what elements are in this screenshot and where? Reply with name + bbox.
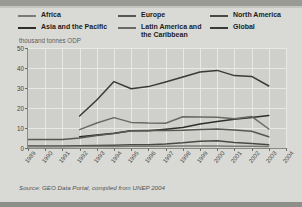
x-tick-mark-2003 [269,148,270,151]
legend-label-latin-america-and-the-caribbean: Latin America and the Caribbean [141,23,210,40]
x-tick-label-2004: 2004 [282,150,295,164]
y-axis-title: thousand tonnes ODP [19,37,81,44]
legend-label-asia-and-the-pacific: Asia and the Pacific [41,23,107,32]
x-tick-mark-2001 [234,148,235,151]
plot-area: 01020304050 1989199019911992199319941995… [28,48,286,148]
y-tick-mark-40 [25,68,28,69]
legend-swatch-europe [118,15,136,17]
legend-item-north-america: North America [210,11,292,20]
legend-label-europe: Europe [141,11,165,20]
x-tick-mark-1994 [114,148,115,151]
x-tick-label-1995: 1995 [127,150,140,164]
x-tick-mark-2002 [252,148,253,151]
legend-label-north-america: North America [233,11,281,20]
x-tick-label-1999: 1999 [196,150,209,164]
y-tick-label-40: 40 [17,65,24,72]
x-tick-mark-1997 [166,148,167,151]
x-tick-label-2002: 2002 [247,150,260,164]
x-tick-label-1994: 1994 [110,150,123,164]
y-tick-mark-50 [25,48,28,49]
figure-chart-ozone-depleting-substances: Africa Asia and the Pacific Europe Latin… [0,0,302,207]
y-tick-label-50: 50 [17,45,24,52]
legend-swatch-latin-america-and-the-caribbean [118,27,136,29]
legend-column-1: Africa Asia and the Pacific [18,11,118,34]
x-tick-label-1989: 1989 [24,150,37,164]
x-axis-line [27,148,286,149]
series-line-north-america [28,141,269,146]
y-tick-label-20: 20 [17,105,24,112]
y-tick-label-0: 0 [20,145,24,152]
chart-legend: Africa Asia and the Pacific Europe Latin… [18,11,290,39]
gridline-x-2004 [286,48,287,148]
legend-column-3: North America Global [210,11,292,34]
source-note: Source: GEO Data Portal, compiled from U… [19,184,165,191]
x-tick-mark-1989 [28,148,29,151]
legend-item-africa: Africa [18,11,118,20]
legend-item-global: Global [210,23,292,32]
x-tick-mark-2004 [286,148,287,151]
legend-swatch-north-america [210,15,228,17]
y-tick-label-30: 30 [17,85,24,92]
x-tick-label-2003: 2003 [265,150,278,164]
x-tick-label-1990: 1990 [41,150,54,164]
bottom-rule [0,202,302,207]
x-tick-mark-1991 [62,148,63,151]
y-tick-mark-10 [25,128,28,129]
series-line-global [80,70,269,116]
legend-label-global: Global [233,23,255,32]
legend-swatch-global [210,27,228,29]
legend-column-2: Europe Latin America and the Caribbean [118,11,210,43]
x-tick-mark-1995 [131,148,132,151]
x-tick-label-2000: 2000 [213,150,226,164]
series-line-europe [28,129,269,140]
x-tick-mark-1999 [200,148,201,151]
x-tick-label-1998: 1998 [179,150,192,164]
x-tick-mark-1990 [45,148,46,151]
x-tick-mark-1992 [80,148,81,151]
top-rule-light [0,6,302,8]
x-tick-mark-1993 [97,148,98,151]
y-tick-label-10: 10 [17,125,24,132]
x-tick-label-1991: 1991 [58,150,71,164]
series-lines [28,48,286,148]
x-tick-label-1997: 1997 [161,150,174,164]
x-tick-label-1993: 1993 [93,150,106,164]
x-tick-mark-1996 [148,148,149,151]
legend-label-africa: Africa [41,11,61,20]
legend-item-asia-and-the-pacific: Asia and the Pacific [18,23,118,32]
x-tick-label-1992: 1992 [75,150,88,164]
legend-swatch-africa [18,15,36,17]
x-tick-label-1996: 1996 [144,150,157,164]
legend-item-europe: Europe [118,11,210,20]
series-line-africa [28,146,269,147]
y-tick-mark-20 [25,108,28,109]
x-tick-label-2001: 2001 [230,150,243,164]
legend-item-latin-america-and-the-caribbean: Latin America and the Caribbean [118,23,210,40]
x-tick-mark-1998 [183,148,184,151]
x-tick-mark-2000 [217,148,218,151]
legend-swatch-asia-and-the-pacific [18,27,36,29]
y-tick-mark-30 [25,88,28,89]
